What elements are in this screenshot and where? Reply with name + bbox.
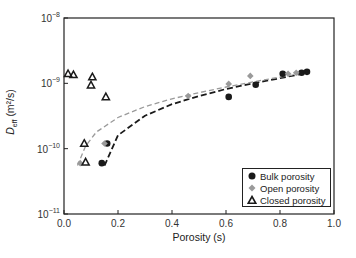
svg-text:0.8: 0.8	[273, 218, 287, 229]
data-points	[64, 69, 310, 167]
fit-curves	[78, 73, 308, 166]
legend-item-open: Open porosity	[247, 182, 330, 194]
diamond-icon	[247, 183, 257, 193]
filled-circle-icon	[247, 171, 257, 181]
closed-porosity-point	[102, 93, 109, 100]
legend-label: Closed porosity	[260, 195, 325, 206]
closed-porosity-point	[89, 73, 96, 80]
closed-porosity-point	[70, 71, 77, 78]
chart-legend: Bulk porosity Open porosity Closed poros…	[242, 168, 331, 207]
closed-porosity-point	[81, 140, 88, 147]
bulk-porosity-point	[252, 81, 259, 88]
svg-text:10−8: 10−8	[41, 11, 60, 24]
bulk-porosity-point	[304, 69, 311, 76]
svg-text:0.6: 0.6	[219, 218, 233, 229]
svg-text:1.0: 1.0	[327, 218, 341, 229]
x-axis-label: Porosity (s)	[172, 231, 225, 243]
svg-text:10−10: 10−10	[37, 142, 60, 155]
svg-text:0.2: 0.2	[111, 218, 125, 229]
open-porosity-point	[247, 73, 254, 80]
closed-porosity-point	[82, 158, 89, 165]
svg-text:0.4: 0.4	[165, 218, 179, 229]
legend-item-bulk: Bulk porosity	[247, 170, 330, 182]
bulk-porosity-point	[225, 94, 232, 101]
legend-label: Bulk porosity	[260, 171, 314, 182]
y-axis-label-subscript: eff	[11, 120, 18, 128]
legend-label: Open porosity	[260, 183, 319, 194]
closed-porosity-point	[87, 81, 94, 88]
triangle-icon	[247, 195, 257, 205]
svg-text:0.0: 0.0	[57, 218, 71, 229]
y-axis-label-main: D	[4, 127, 16, 135]
open-porosity-point	[185, 93, 192, 100]
y-axis-label-unit: (m²/s)	[4, 89, 16, 119]
bulk-porosity-point	[99, 160, 106, 167]
svg-text:10−9: 10−9	[41, 76, 60, 89]
open-porosity-point	[225, 81, 232, 88]
legend-item-closed: Closed porosity	[247, 194, 330, 206]
y-axis-label: Deff (m²/s)	[4, 89, 18, 135]
chart-plot: 0.00.20.40.60.81.010−1110−1010−910−8 Por…	[0, 0, 356, 258]
